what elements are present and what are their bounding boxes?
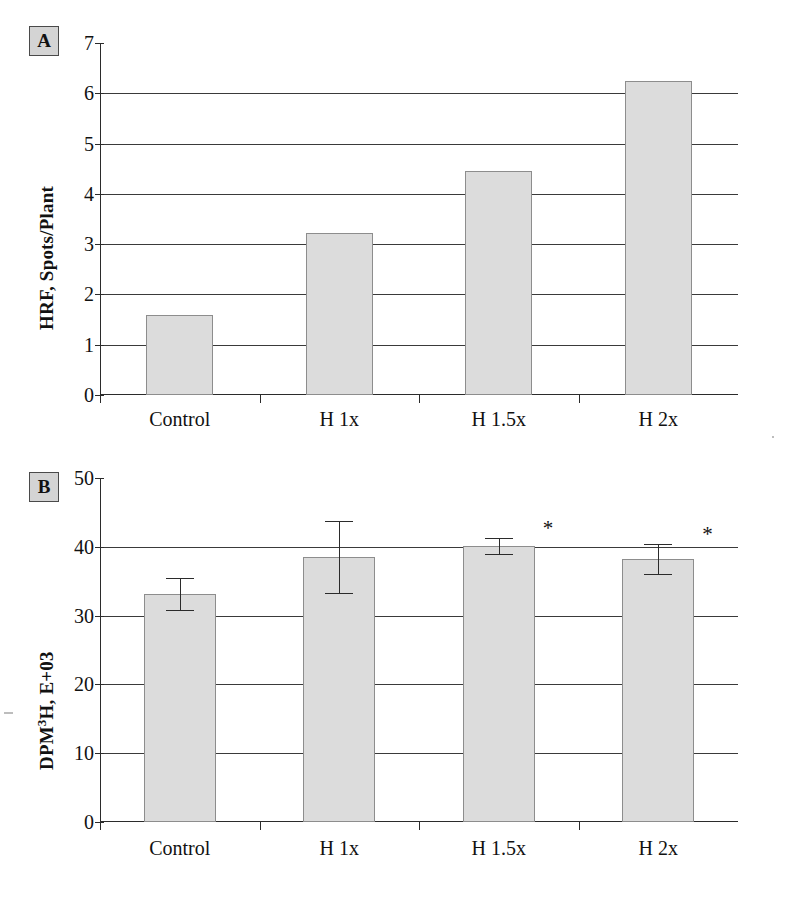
error-bar-cap-lower <box>644 574 672 575</box>
x-tick-label: H 1x <box>260 409 420 429</box>
y-tick-label: 30 <box>48 606 94 626</box>
x-tick-label: H 1.5x <box>419 838 579 858</box>
plot-area-a <box>100 43 738 395</box>
y-tick-mark <box>95 753 104 754</box>
significance-asterisk: * <box>543 518 554 539</box>
bar <box>306 233 373 395</box>
bar <box>465 171 532 395</box>
y-axis-title-a: HRF, Spots/Plant <box>36 186 58 330</box>
bar <box>463 546 535 822</box>
y-tick-mark <box>95 547 104 548</box>
y-axis-line-b <box>100 478 101 822</box>
y-tick-label: 10 <box>48 743 94 763</box>
gridline <box>100 547 738 548</box>
y-tick-mark <box>95 244 104 245</box>
y-tick-label: 3 <box>48 234 94 254</box>
y-tick-mark <box>95 294 104 295</box>
y-tick-mark <box>95 194 104 195</box>
x-tick-mark <box>419 822 420 830</box>
scan-speck-edge <box>4 712 13 714</box>
bar <box>625 81 692 395</box>
y-tick-label: 4 <box>48 184 94 204</box>
error-bar-cap-lower <box>166 610 194 611</box>
y-tick-mark <box>95 144 104 145</box>
error-bar-cap-upper <box>485 538 513 539</box>
scan-speck <box>772 436 774 438</box>
x-tick-label: H 1.5x <box>419 409 579 429</box>
y-axis-line-a <box>100 43 101 395</box>
x-tick-mark <box>260 822 261 830</box>
bar <box>146 315 213 395</box>
error-bar-stem <box>499 538 500 555</box>
y-tick-label: 5 <box>48 134 94 154</box>
y-tick-label: 1 <box>48 335 94 355</box>
x-tick-label: H 1x <box>260 838 420 858</box>
bar <box>144 594 216 822</box>
y-tick-mark <box>95 345 104 346</box>
x-tick-mark <box>100 822 101 830</box>
y-tick-mark <box>95 43 104 44</box>
y-tick-mark <box>95 616 104 617</box>
bar <box>303 557 375 822</box>
error-bar-cap-upper <box>325 521 353 522</box>
error-bar-stem <box>658 544 659 574</box>
y-tick-label: 7 <box>48 33 94 53</box>
x-tick-label: Control <box>100 409 260 429</box>
x-tick-mark <box>100 395 101 403</box>
y-tick-label: 40 <box>48 537 94 557</box>
x-tick-mark <box>419 395 420 403</box>
x-tick-mark <box>579 395 580 403</box>
x-tick-label: H 2x <box>579 409 739 429</box>
y-tick-label: 0 <box>48 812 94 832</box>
x-tick-label: H 2x <box>579 838 739 858</box>
panel-a: A HRF, Spots/Plant 01234567ControlH 1xH … <box>0 0 789 450</box>
y-tick-mark <box>95 93 104 94</box>
error-bar-stem <box>180 578 181 610</box>
error-bar-cap-lower <box>485 554 513 555</box>
y-tick-label: 0 <box>48 385 94 405</box>
bar <box>622 559 694 822</box>
plot-area-b: ** <box>100 478 738 822</box>
error-bar-cap-upper <box>166 578 194 579</box>
error-bar-stem <box>339 521 340 593</box>
significance-asterisk: * <box>702 524 713 545</box>
y-tick-label: 20 <box>48 674 94 694</box>
y-tick-label: 6 <box>48 83 94 103</box>
y-tick-mark <box>95 684 104 685</box>
y-tick-label: 50 <box>48 468 94 488</box>
y-tick-mark <box>95 478 104 479</box>
panel-b: B DPM3H, E+03 ** 01020304050ControlH 1xH… <box>0 450 789 897</box>
x-tick-label: Control <box>100 838 260 858</box>
x-tick-mark <box>260 395 261 403</box>
x-tick-mark <box>579 822 580 830</box>
y-tick-label: 2 <box>48 284 94 304</box>
error-bar-cap-lower <box>325 593 353 594</box>
y-axis-title-b-superscript: 3 <box>34 719 49 726</box>
figure-container: A HRF, Spots/Plant 01234567ControlH 1xH … <box>0 0 789 897</box>
error-bar-cap-upper <box>644 544 672 545</box>
